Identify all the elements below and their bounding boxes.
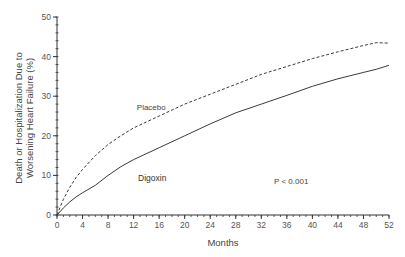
y-tick-label: 10 [42, 170, 52, 180]
x-tick-label: 0 [55, 220, 60, 230]
y-tick-label: 40 [42, 52, 52, 62]
y-axis-title: Death or Hospitalization Due toWorsening… [13, 52, 35, 184]
y-tick-label: 50 [42, 12, 52, 22]
x-tick-label: 24 [205, 220, 215, 230]
p-value-annotation: P < 0.001 [274, 177, 309, 186]
x-tick-label: 28 [231, 220, 241, 230]
x-tick-label: 12 [129, 220, 139, 230]
x-tick-label: 52 [384, 220, 394, 230]
x-tick-label: 36 [282, 220, 292, 230]
series-line-placebo [57, 43, 389, 215]
series-line-digoxin [57, 65, 389, 215]
x-tick-label: 44 [333, 220, 343, 230]
p-value-annotation: Placebo [137, 103, 166, 112]
x-tick-label: 32 [257, 220, 267, 230]
x-tick-label: 16 [154, 220, 164, 230]
x-tick-label: 20 [180, 220, 190, 230]
x-axis-title: Months [207, 237, 238, 248]
kaplan-meier-chart: 010203040500481216202428323640444852 Mon… [0, 0, 405, 257]
x-tick-label: 40 [308, 220, 318, 230]
series-label-digoxin: Digoxin [138, 173, 167, 183]
y-tick-label: 0 [46, 210, 51, 220]
x-tick-label: 4 [80, 220, 85, 230]
x-tick-label: 48 [359, 220, 369, 230]
series-group [57, 43, 389, 215]
y-tick-label: 30 [42, 91, 52, 101]
x-tick-label: 8 [106, 220, 111, 230]
y-tick-label: 20 [42, 131, 52, 141]
